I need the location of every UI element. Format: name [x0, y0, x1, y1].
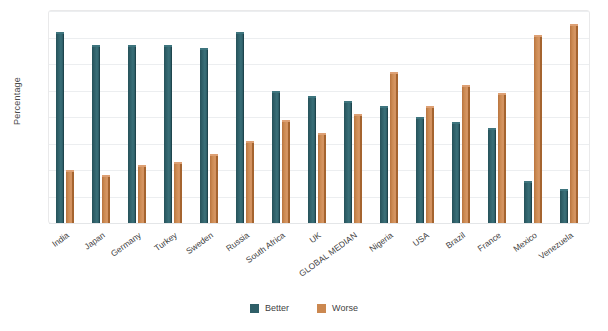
bar-group — [553, 11, 589, 223]
bar-top-cap — [498, 93, 506, 95]
bar-better[interactable] — [452, 122, 460, 223]
bar-better[interactable] — [272, 91, 280, 224]
bar-side-edge — [207, 48, 209, 223]
bar-better[interactable] — [92, 45, 100, 223]
bar-better[interactable] — [560, 189, 568, 223]
bar-side-edge — [99, 45, 101, 223]
bar-group — [229, 11, 265, 223]
bar-side-edge — [576, 24, 578, 223]
bar-worse[interactable] — [138, 165, 146, 223]
bar-top-cap — [282, 120, 290, 122]
bar-better[interactable] — [380, 106, 388, 223]
bar-side-edge — [171, 45, 173, 223]
legend-item-better[interactable]: Better — [250, 303, 289, 313]
bar-side-edge — [144, 165, 146, 223]
plot-area — [49, 11, 589, 223]
bar-better[interactable] — [488, 128, 496, 223]
bar-worse[interactable] — [570, 24, 578, 223]
bar-top-cap — [272, 91, 280, 93]
bar-worse[interactable] — [102, 175, 110, 223]
bar-side-edge — [108, 175, 110, 223]
bar-top-cap — [164, 45, 172, 47]
chart-legend: Better Worse — [0, 303, 608, 313]
bar-side-edge — [504, 93, 506, 223]
bar-group — [409, 11, 445, 223]
bar-better[interactable] — [308, 96, 316, 223]
legend-label-worse: Worse — [332, 303, 358, 313]
bar-better[interactable] — [128, 45, 136, 223]
bar-worse[interactable] — [282, 120, 290, 223]
x-tick-label: Nigeria — [367, 230, 395, 254]
bar-top-cap — [390, 72, 398, 74]
bar-top-cap — [66, 170, 74, 172]
bar-side-edge — [468, 85, 470, 223]
legend-label-better: Better — [265, 303, 289, 313]
bar-top-cap — [210, 154, 218, 156]
bar-side-edge — [180, 162, 182, 223]
bar-top-cap — [426, 106, 434, 108]
x-tick-label: Russia — [224, 230, 251, 253]
bar-top-cap — [380, 106, 388, 108]
bar-top-cap — [534, 35, 542, 37]
bar-side-edge — [216, 154, 218, 223]
bar-worse[interactable] — [390, 72, 398, 223]
bar-side-edge — [360, 114, 362, 223]
bar-better[interactable] — [416, 117, 424, 223]
bar-group — [301, 11, 337, 223]
bar-side-edge — [531, 181, 533, 223]
bar-worse[interactable] — [498, 93, 506, 223]
bar-worse[interactable] — [462, 85, 470, 223]
bar-top-cap — [236, 32, 244, 34]
x-tick-label: USA — [411, 230, 431, 248]
x-tick-label: UK — [307, 230, 322, 245]
bar-worse[interactable] — [246, 141, 254, 223]
x-tick-label: India — [50, 230, 71, 249]
bar-better[interactable] — [164, 45, 172, 223]
bar-top-cap — [462, 85, 470, 87]
bar-top-cap — [416, 117, 424, 119]
bar-side-edge — [324, 133, 326, 223]
y-axis-title: Percentage — [12, 51, 22, 151]
bar-side-edge — [252, 141, 254, 223]
bar-worse[interactable] — [210, 154, 218, 223]
bar-better[interactable] — [56, 32, 64, 223]
bar-side-edge — [288, 120, 290, 223]
bar-top-cap — [200, 48, 208, 50]
bars-layer — [49, 11, 589, 223]
bar-worse[interactable] — [318, 133, 326, 223]
bar-worse[interactable] — [354, 114, 362, 223]
bar-side-edge — [495, 128, 497, 223]
x-tick-label: Venezuela — [537, 230, 575, 261]
bar-better[interactable] — [236, 32, 244, 223]
bar-top-cap — [570, 24, 578, 26]
bar-top-cap — [246, 141, 254, 143]
bar-top-cap — [524, 181, 532, 183]
bar-worse[interactable] — [534, 35, 542, 223]
x-tick-label: Germany — [109, 230, 143, 259]
x-tick-label: GLOBAL MEDIAN — [297, 230, 359, 279]
bar-group — [193, 11, 229, 223]
bar-worse[interactable] — [66, 170, 74, 223]
bar-side-edge — [387, 106, 389, 223]
bar-worse[interactable] — [174, 162, 182, 223]
bar-group — [481, 11, 517, 223]
bar-group — [373, 11, 409, 223]
bar-group — [85, 11, 121, 223]
bar-group — [445, 11, 481, 223]
bar-top-cap — [128, 45, 136, 47]
bar-top-cap — [308, 96, 316, 98]
bar-top-cap — [452, 122, 460, 124]
bar-better[interactable] — [200, 48, 208, 223]
bar-better[interactable] — [524, 181, 532, 223]
bar-top-cap — [344, 101, 352, 103]
bar-side-edge — [423, 117, 425, 223]
x-tick-label: Turkey — [152, 230, 179, 253]
bar-worse[interactable] — [426, 106, 434, 223]
bar-side-edge — [279, 91, 281, 224]
x-tick-label: France — [476, 230, 503, 254]
bar-better[interactable] — [344, 101, 352, 223]
bar-side-edge — [567, 189, 569, 223]
bar-group — [121, 11, 157, 223]
bar-top-cap — [318, 133, 326, 135]
legend-item-worse[interactable]: Worse — [317, 303, 358, 313]
